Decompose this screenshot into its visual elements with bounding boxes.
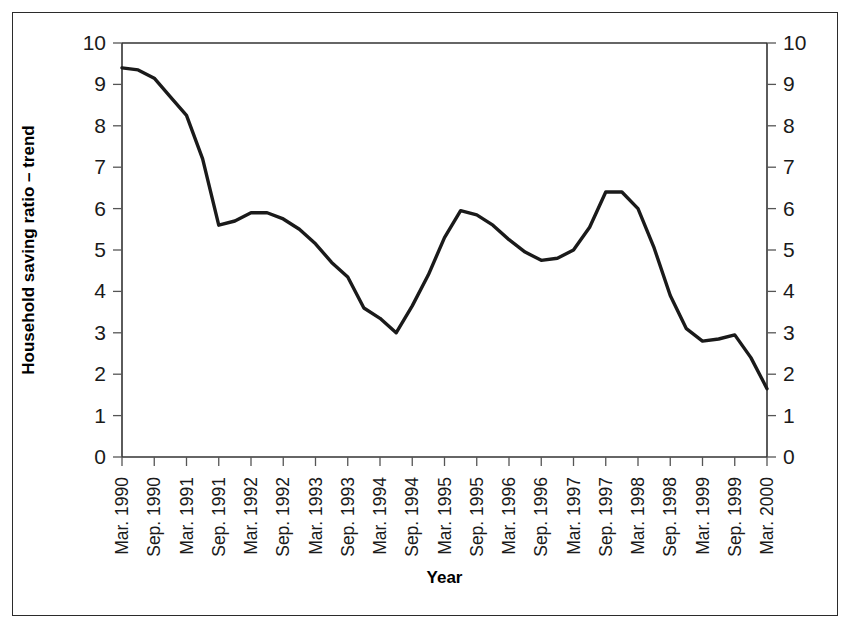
x-tick-label: Sep. 1995: [467, 477, 487, 557]
x-tick-label: Sep. 1992: [273, 477, 293, 557]
chart-container: 001122334455667788991010Mar. 1990Sep. 19…: [0, 0, 851, 629]
y-tick-label-left: 0: [94, 445, 106, 468]
y-axis-title: Household saving ratio – trend: [19, 125, 38, 374]
x-tick-label: Mar. 2000: [757, 477, 777, 555]
y-tick-label-right: 2: [783, 362, 795, 385]
x-tick-label: Mar. 1992: [241, 477, 261, 555]
x-tick-label: Mar. 1994: [370, 477, 390, 555]
y-tick-label-right: 6: [783, 197, 795, 220]
y-tick-label-right: 3: [783, 321, 795, 344]
x-tick-label: Mar. 1990: [112, 477, 132, 555]
y-tick-label-left: 10: [83, 31, 106, 54]
y-tick-label-left: 9: [94, 72, 106, 95]
x-tick-label: Mar. 1996: [499, 477, 519, 555]
x-tick-label: Sep. 1998: [660, 477, 680, 557]
y-tick-label-right: 0: [783, 445, 795, 468]
y-tick-label-right: 10: [783, 31, 806, 54]
y-tick-label-left: 3: [94, 321, 106, 344]
x-tick-label: Sep. 1996: [531, 477, 551, 557]
x-tick-label: Sep. 1994: [402, 477, 422, 557]
x-tick-label: Sep. 1990: [144, 477, 164, 557]
y-tick-label-left: 2: [94, 362, 106, 385]
x-tick-label: Mar. 1998: [628, 477, 648, 555]
x-axis-title: Year: [427, 568, 463, 587]
x-tick-label: Sep. 1991: [209, 477, 229, 557]
x-tick-label: Mar. 1991: [177, 477, 197, 555]
y-tick-label-right: 4: [783, 279, 795, 302]
y-tick-label-right: 9: [783, 72, 795, 95]
x-tick-label: Sep. 1993: [338, 477, 358, 557]
x-tick-label: Sep. 1999: [725, 477, 745, 557]
y-tick-label-right: 8: [783, 114, 795, 137]
y-tick-label-left: 1: [94, 404, 106, 427]
y-tick-label-left: 7: [94, 155, 106, 178]
y-tick-label-right: 5: [783, 238, 795, 261]
y-tick-label-left: 6: [94, 197, 106, 220]
x-tick-label: Mar. 1999: [693, 477, 713, 555]
x-tick-label: Sep. 1997: [596, 477, 616, 557]
y-tick-label-right: 7: [783, 155, 795, 178]
y-tick-label-left: 4: [94, 279, 106, 302]
saving-ratio-line-chart: 001122334455667788991010Mar. 1990Sep. 19…: [0, 0, 851, 629]
x-tick-label: Mar. 1993: [306, 477, 326, 555]
x-tick-label: Mar. 1995: [435, 477, 455, 555]
y-tick-label-left: 5: [94, 238, 106, 261]
x-tick-label: Mar. 1997: [564, 477, 584, 555]
y-tick-label-left: 8: [94, 114, 106, 137]
y-tick-label-right: 1: [783, 404, 795, 427]
data-series-line: [122, 68, 767, 389]
